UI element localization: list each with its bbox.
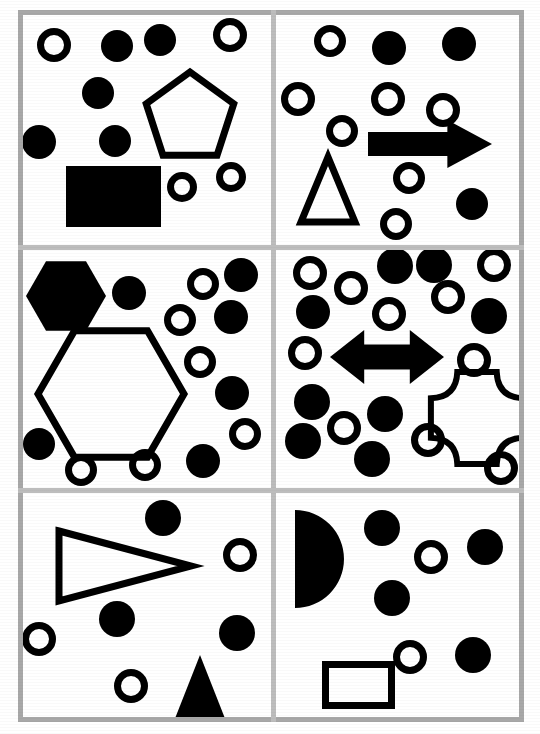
open-circle (397, 166, 422, 191)
hexagon (38, 331, 184, 457)
filled-circle (224, 258, 258, 292)
open-circle (384, 212, 409, 237)
filled-circle (471, 298, 507, 334)
filled-circle (354, 441, 390, 477)
filled-rectangle (66, 166, 161, 227)
shape-panel-top-left[interactable] (22, 14, 271, 245)
pentagon (146, 72, 234, 155)
shape-panel-middle-left[interactable] (22, 250, 271, 488)
filled-circle (416, 250, 452, 283)
shape-canvas-top-left (22, 14, 271, 245)
shape-panel-middle-right[interactable] (276, 250, 522, 488)
open-circle (188, 350, 213, 375)
open-circle (488, 455, 515, 482)
open-circle (375, 86, 402, 113)
right-arrow (368, 120, 492, 168)
open-circle (330, 119, 355, 144)
filled-circle (112, 276, 146, 310)
shape-panel-top-right[interactable] (276, 14, 522, 245)
open-circle (430, 97, 457, 124)
filled-circle (364, 510, 400, 546)
filled-circle (456, 188, 488, 220)
filled-circle (99, 601, 135, 637)
open-circle (435, 284, 462, 311)
open-circle (338, 275, 365, 302)
open-circle (331, 415, 358, 442)
open-circle (397, 644, 424, 671)
open-circle (69, 458, 94, 483)
filled-circle (294, 384, 330, 420)
filled-circle (442, 27, 476, 61)
open-circle (168, 308, 193, 333)
filled-circle (23, 428, 55, 460)
filled-circle (101, 30, 133, 62)
shape-canvas-bottom-left (22, 493, 271, 719)
open-circle (481, 252, 508, 279)
open-circle (118, 673, 145, 700)
shape-canvas-bottom-right (276, 493, 522, 719)
filled-circle (377, 250, 413, 284)
shape-canvas-middle-right (276, 250, 522, 488)
shape-canvas-top-right (276, 14, 522, 245)
open-circle (220, 166, 243, 189)
filled-circle (467, 529, 503, 565)
open-circle (227, 542, 254, 569)
open-circle (217, 22, 244, 49)
open-circle (318, 29, 343, 54)
open-circle (41, 32, 68, 59)
open-circle (191, 272, 216, 297)
triangle (301, 157, 355, 222)
open-circle (376, 301, 403, 328)
filled-circle (144, 24, 176, 56)
filled-circle (186, 444, 220, 478)
shape-panel-bottom-left[interactable] (22, 493, 271, 719)
right-triangle (59, 531, 191, 601)
open-circle (26, 626, 53, 653)
open-circle (297, 260, 324, 287)
double-arrow (330, 330, 444, 384)
open-circle (171, 176, 194, 199)
open-circle (285, 86, 312, 113)
filled-circle (285, 423, 321, 459)
filled-triangle (174, 655, 226, 719)
filled-circle (374, 580, 410, 616)
open-circle (233, 422, 258, 447)
stimulus-sheet (0, 0, 540, 734)
filled-circle (99, 125, 131, 157)
filled-circle (367, 396, 403, 432)
rectangle (326, 665, 392, 706)
filled-circle (145, 500, 181, 536)
shape-canvas-middle-left (22, 250, 271, 488)
open-circle (418, 544, 445, 571)
filled-circle (22, 125, 56, 159)
filled-hexagon (26, 261, 106, 330)
filled-circle (296, 295, 330, 329)
filled-circle (82, 77, 114, 109)
panel-grid (0, 0, 540, 734)
filled-circle (372, 31, 406, 65)
filled-circle (215, 376, 249, 410)
concave-cross (431, 372, 522, 464)
shape-panel-bottom-right[interactable] (276, 493, 522, 719)
half-disc (295, 510, 344, 608)
open-circle (292, 340, 319, 367)
filled-circle (214, 300, 248, 334)
filled-circle (455, 637, 491, 673)
filled-circle (219, 615, 255, 651)
